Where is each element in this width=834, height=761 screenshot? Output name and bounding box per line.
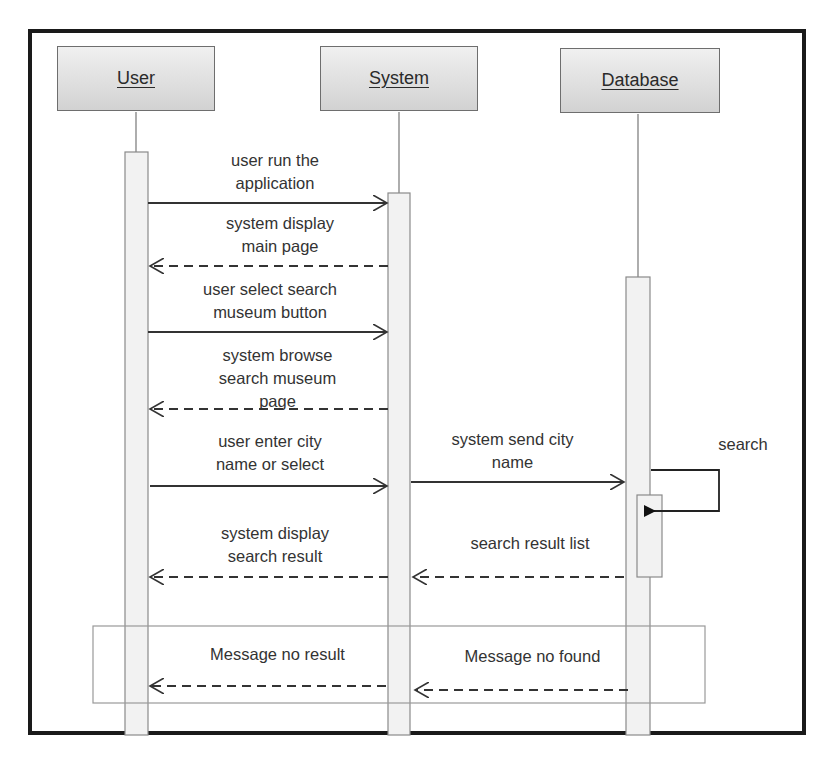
lifeline-database: Database <box>560 48 720 113</box>
msg-send-city-label: system send cityname <box>430 428 595 474</box>
database-nested-activation-bar <box>637 495 662 577</box>
lifeline-user: User <box>57 46 215 111</box>
msg-browse-search-page-label: system browsesearch museumpage <box>190 344 365 413</box>
msg-self-search-label: search <box>708 433 778 456</box>
lifeline-user-label: User <box>117 68 155 89</box>
msg-no-found-label: Message no found <box>450 645 615 668</box>
msg-search-result-list-label: search result list <box>450 532 610 555</box>
msg-select-search-label: user select searchmuseum button <box>175 278 365 324</box>
user-activation-bar <box>125 152 148 735</box>
msg-no-result-label: Message no result <box>190 643 365 666</box>
msg-display-main-page-label: system displaymain page <box>200 212 360 258</box>
msg-enter-city-label: user enter cityname or select <box>190 430 350 476</box>
sequence-diagram-canvas <box>0 0 834 761</box>
lifeline-system-label: System <box>369 68 429 89</box>
lifeline-system: System <box>320 46 478 111</box>
system-activation-bar <box>388 193 410 735</box>
lifeline-database-label: Database <box>601 70 678 91</box>
msg-run-application-label: user run theapplication <box>210 149 340 195</box>
msg-display-search-result-label: system displaysearch result <box>195 522 355 568</box>
